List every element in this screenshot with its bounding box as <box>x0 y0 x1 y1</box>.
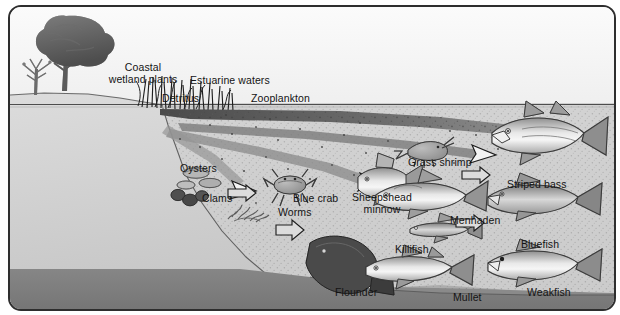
label-sheepshead-minnow: Sheepshead minnow <box>336 192 428 215</box>
label-grass-shrimp: Grass shrimp <box>408 157 472 169</box>
label-killifish: Killifish <box>395 244 429 256</box>
label-striped-bass: Striped bass <box>507 179 567 191</box>
label-oysters: Oysters <box>180 163 217 175</box>
label-weakfish: Weakfish <box>527 287 571 299</box>
illustration-stage: Coastal wetland plants Estuarine waters … <box>0 0 620 315</box>
label-blue-crab: Blue crab <box>293 193 338 205</box>
estuary-scene-artwork <box>10 7 614 309</box>
label-menhaden: Menhaden <box>450 215 500 227</box>
diagram-frame: Coastal wetland plants Estuarine waters … <box>8 5 616 311</box>
label-estuarine-waters: Estuarine waters <box>190 75 270 87</box>
label-bluefish: Bluefish <box>521 239 559 251</box>
label-flounder: Flounder <box>335 287 377 299</box>
label-coastal-wetland-plants: Coastal wetland plants <box>88 62 198 85</box>
label-worms: Worms <box>278 207 312 219</box>
label-detritus: Detritus <box>162 93 199 105</box>
label-mullet: Mullet <box>453 292 482 304</box>
label-zooplankton: Zooplankton <box>251 93 310 105</box>
label-clams: Clams <box>202 193 232 205</box>
